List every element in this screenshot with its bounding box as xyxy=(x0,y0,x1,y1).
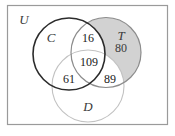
set-label-c: C xyxy=(47,30,56,45)
region-count-t-and-d: 89 xyxy=(104,72,116,86)
region-count-c-and-t: 16 xyxy=(82,31,94,45)
venn-diagram-figure: U C T D 16 80 109 61 89 xyxy=(0,0,175,136)
region-count-center: 109 xyxy=(80,55,98,69)
venn-diagram-canvas: U C T D 16 80 109 61 89 xyxy=(0,0,175,136)
region-count-c-and-d: 61 xyxy=(63,72,75,86)
universe-label: U xyxy=(19,12,30,27)
region-count-t-only: 80 xyxy=(115,41,127,55)
set-label-d: D xyxy=(82,99,93,114)
